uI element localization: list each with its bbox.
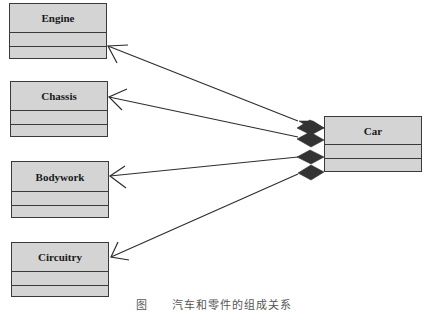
composition-diamond-bodywork <box>297 150 324 164</box>
composition-line-chassis <box>109 97 298 137</box>
composition-diamond-chassis <box>297 132 324 147</box>
composition-line-circuitry <box>111 174 298 257</box>
composition-line-engine <box>108 46 298 121</box>
arrowhead-icon <box>111 242 129 260</box>
composition-line-bodywork <box>110 157 298 176</box>
composition-diamond-circuitry <box>298 165 324 180</box>
figure-caption: 图 汽车和零件的组成关系 <box>0 296 428 312</box>
arrowhead-icon <box>110 166 126 188</box>
